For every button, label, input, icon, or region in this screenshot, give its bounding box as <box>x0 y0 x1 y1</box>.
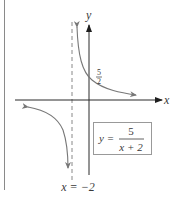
equation-numerator: 5 <box>128 125 134 137</box>
equation-denominator: x + 2 <box>118 141 143 153</box>
y-axis-label: y <box>85 8 92 22</box>
hyperbola-graph: y x 5 2 y = 5 x + 2 x = −2 <box>0 0 176 197</box>
equation-prefix: y = <box>98 132 114 144</box>
asymptote-label: x = −2 <box>60 180 95 194</box>
curve-lower-branch <box>28 107 68 168</box>
y-intercept-denominator: 2 <box>97 77 101 86</box>
y-intercept-numerator: 5 <box>97 68 101 77</box>
x-axis-label: x <box>163 93 170 107</box>
curve-upper-branch <box>77 27 136 95</box>
